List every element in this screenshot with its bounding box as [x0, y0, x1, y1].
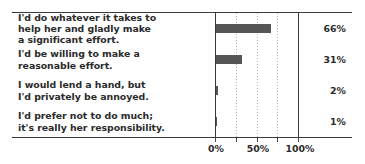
- row-label-line: I'd privately be annoyed.: [18, 91, 208, 102]
- row-label-line: I'd prefer not to do much;: [18, 110, 208, 121]
- xtick-mark-25: [236, 138, 237, 142]
- row-value: 1%: [300, 106, 346, 137]
- xtick-mark-0: [215, 138, 216, 142]
- row-label: I'd prefer not to do much; it's really h…: [18, 106, 208, 137]
- bar-66-percent: [216, 24, 271, 33]
- chart-rows: I'd do whatever it takes to help her and…: [0, 13, 365, 137]
- row-label-line: I would lend a hand, but: [18, 79, 208, 90]
- row-label: I'd be willing to make a reasonable effo…: [18, 44, 208, 75]
- row-label-line: it's really her responsibility.: [18, 122, 208, 133]
- xtick-mark-75: [277, 138, 278, 142]
- table-row: I'd do whatever it takes to help her and…: [0, 13, 365, 44]
- xtick-label-100: 100%: [270, 143, 330, 154]
- row-label-line: help her and gladly make: [18, 23, 208, 34]
- bar-1-percent: [216, 117, 217, 126]
- row-label-line: I'd do whatever it takes to: [18, 12, 208, 23]
- row-label: I'd do whatever it takes to help her and…: [18, 13, 208, 44]
- row-label: I would lend a hand, but I'd privately b…: [18, 75, 208, 106]
- bar-31-percent: [216, 55, 242, 64]
- bottom-divider-rule: [12, 137, 352, 138]
- row-value: 31%: [300, 44, 346, 75]
- xtick-mark-50: [257, 138, 258, 142]
- table-row: I'd be willing to make a reasonable effo…: [0, 44, 365, 75]
- table-row: I'd prefer not to do much; it's really h…: [0, 106, 365, 137]
- table-row: I would lend a hand, but I'd privately b…: [0, 75, 365, 106]
- row-label-line: I'd be willing to make a: [18, 48, 208, 59]
- horizontal-bar-chart: I'd do whatever it takes to help her and…: [0, 0, 365, 164]
- bar-2-percent: [216, 86, 218, 95]
- row-value: 66%: [300, 13, 346, 44]
- row-value: 2%: [300, 75, 346, 106]
- xtick-mark-100: [298, 138, 299, 142]
- row-label-line: reasonable effort.: [18, 60, 208, 71]
